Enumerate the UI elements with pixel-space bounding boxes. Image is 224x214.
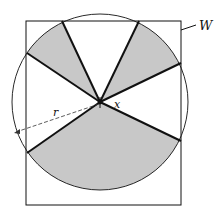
center-point xyxy=(98,100,103,105)
point-label: x xyxy=(114,98,121,111)
window-label-leader xyxy=(181,25,196,30)
sector-window-diagram: W r x xyxy=(0,0,224,214)
radius-label: r xyxy=(53,106,59,119)
window-label: W xyxy=(199,18,214,33)
radius-arrowhead xyxy=(14,129,20,134)
shaded-sector-lower xyxy=(0,102,224,214)
